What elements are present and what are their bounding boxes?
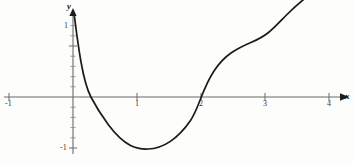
plot-canvas [0, 0, 354, 165]
function-graph-figure: -1 1 2 3 4 1 -1 y x [0, 0, 354, 165]
x-tick-label-3: 3 [263, 100, 267, 108]
function-curve [74, 0, 316, 149]
x-tick-label-minus1: -1 [5, 100, 12, 108]
y-tick-label-minus1: -1 [60, 144, 67, 152]
x-axis-label: x [345, 92, 350, 101]
x-tick-label-4: 4 [327, 100, 331, 108]
y-axis-label: y [67, 2, 71, 11]
y-tick-label-1: 1 [64, 22, 68, 30]
x-tick-label-2: 2 [199, 100, 203, 108]
x-tick-label-1: 1 [135, 100, 139, 108]
